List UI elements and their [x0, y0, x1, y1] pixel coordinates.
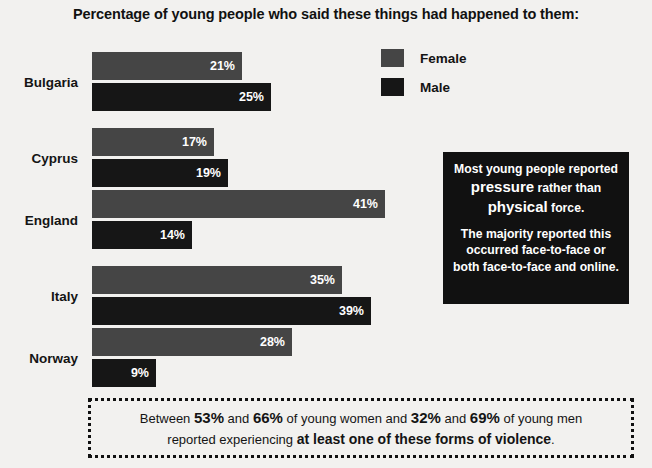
summary-banner-line-1: Between 53% and 66% of young women and 3…: [140, 407, 582, 429]
callout-paragraph-1: Most young people reported pressure rath…: [453, 161, 619, 217]
country-label-england: England: [0, 214, 78, 228]
banner-text-g: .: [551, 432, 555, 447]
banner-stat-53: 53%: [194, 409, 224, 426]
bar-male-bulgaria: 25%: [92, 83, 271, 111]
bar-value-label: 39%: [339, 304, 371, 318]
bar-value-label: 19%: [196, 166, 228, 180]
bar-female-bulgaria: 21%: [92, 52, 242, 80]
summary-banner: Between 53% and 66% of young women and 3…: [88, 398, 634, 458]
callout-text-2: rather than: [534, 181, 601, 195]
banner-stat-32: 32%: [411, 409, 441, 426]
bar-value-label: 9%: [131, 366, 156, 380]
bar-female-italy: 35%: [92, 266, 342, 294]
bar-female-cyprus: 17%: [92, 128, 214, 156]
banner-text-d: and: [441, 411, 470, 426]
bar-value-label: 28%: [260, 335, 292, 349]
callout-emphasis-physical: physical: [488, 198, 548, 215]
banner-text-c: of young women and: [283, 411, 411, 426]
callout-text-1: Most young people reported: [454, 162, 618, 176]
summary-banner-line-2: reported experiencing at least one of th…: [167, 429, 554, 450]
country-label-italy: Italy: [0, 290, 78, 304]
callout-paragraph-2: The majority reported this occurred face…: [453, 226, 619, 275]
country-label-cyprus: Cyprus: [0, 152, 78, 166]
bar-row: 21%: [92, 52, 242, 80]
bar-female-england: 41%: [92, 190, 385, 218]
callout-text-3: force.: [548, 201, 585, 215]
banner-emphasis-violence: at least one of these forms of violence: [297, 431, 551, 447]
country-label-bulgaria: Bulgaria: [0, 76, 78, 90]
bar-male-england: 14%: [92, 221, 192, 249]
banner-text-b: and: [224, 411, 253, 426]
bar-value-label: 21%: [210, 59, 242, 73]
bar-row: 9%: [92, 359, 156, 387]
bar-value-label: 41%: [353, 197, 385, 211]
bar-row: 19%: [92, 159, 228, 187]
bar-value-label: 25%: [239, 90, 271, 104]
bar-male-cyprus: 19%: [92, 159, 228, 187]
banner-text-a: Between: [140, 411, 194, 426]
bar-row: 25%: [92, 83, 271, 111]
bar-row: 41%: [92, 190, 385, 218]
bar-value-label: 14%: [160, 228, 192, 242]
bar-row: 35%: [92, 266, 342, 294]
banner-text-f: reported experiencing: [167, 432, 296, 447]
bar-male-norway: 9%: [92, 359, 156, 387]
bar-male-italy: 39%: [92, 297, 371, 325]
callout-emphasis-pressure: pressure: [471, 178, 534, 195]
bar-value-label: 35%: [310, 273, 342, 287]
bar-row: 17%: [92, 128, 214, 156]
bar-value-label: 17%: [182, 135, 214, 149]
callout-box: Most young people reported pressure rath…: [443, 152, 629, 304]
bar-row: 28%: [92, 328, 292, 356]
banner-stat-69: 69%: [470, 409, 500, 426]
bar-female-norway: 28%: [92, 328, 292, 356]
country-label-norway: Norway: [0, 352, 78, 366]
bar-row: 39%: [92, 297, 371, 325]
bar-row: 14%: [92, 221, 192, 249]
banner-text-e: of young men: [500, 411, 582, 426]
banner-stat-66: 66%: [253, 409, 283, 426]
